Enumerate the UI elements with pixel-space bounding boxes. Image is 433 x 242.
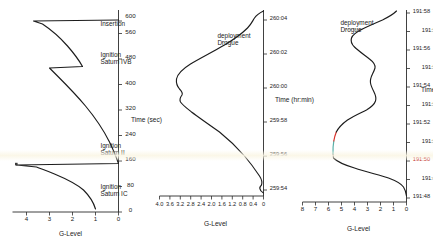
chart-entry-259-svg: 259:54 259:56 259:58 260:00 260:02 260:0… xyxy=(145,0,290,242)
x-tick-label: 259:56 xyxy=(269,151,286,157)
annotation-insertion: Insertion xyxy=(100,20,125,27)
annotation-line: Saturn IVB xyxy=(100,58,131,65)
y-tick-label: 0 xyxy=(261,201,264,207)
y-tick-label: 2.4 xyxy=(197,201,205,207)
y-tick-label: 1.2 xyxy=(228,201,236,207)
x-tick-label: 191:48 xyxy=(412,193,429,199)
y-tick-label: 1 xyxy=(93,215,97,222)
x-axis-tick-labels: 0 80 160 240 320 400 480 560 600 xyxy=(125,12,136,213)
y-tick-label: 8 xyxy=(300,205,304,212)
data-curve-peak-red xyxy=(333,132,336,141)
annotation-drogue-deployment: Drogue deployment xyxy=(217,32,250,47)
x-tick-label: 191:58 xyxy=(412,8,429,14)
y-tick-label: 3 xyxy=(47,215,51,222)
y-axis-ticks xyxy=(159,196,263,200)
x-tick-label: 191:49 xyxy=(421,175,433,181)
y-tick-label: 4.0 xyxy=(155,201,163,207)
annotation-line: Saturn II xyxy=(100,149,124,156)
data-curve-launch xyxy=(16,20,118,209)
x-axis-title: Time (hr:min) xyxy=(421,86,433,94)
annotation-line: Ignition xyxy=(100,142,121,150)
x-tick-label: 259:58 xyxy=(269,117,286,123)
x-tick-label: 191:57 xyxy=(421,27,433,33)
x-tick-label: 240 xyxy=(125,130,136,137)
y-axis-title: G-Level xyxy=(346,225,370,232)
y-tick-label: 0 xyxy=(404,205,408,212)
x-axis-tick-labels: 259:54 259:56 259:58 260:00 260:02 260:0… xyxy=(269,15,286,191)
x-tick-label: 260:02 xyxy=(269,49,286,55)
chart-launch: 0 80 160 240 320 400 480 560 600 Time (s… xyxy=(0,0,145,242)
annotation-line: Ignition xyxy=(100,51,121,59)
y-tick-label: 3 xyxy=(365,205,369,212)
x-tick-label: 560 xyxy=(125,28,136,35)
annotation-saturn-ic: Saturn IC Ignition xyxy=(100,183,127,197)
x-tick-label: 260:00 xyxy=(269,83,286,89)
x-axis-tick-labels: 191:48 191:49 191:50 191:51 191:52 191:5… xyxy=(412,8,433,199)
chart-entry-259-rotated: 259:54 259:56 259:58 260:00 260:02 260:0… xyxy=(145,0,290,242)
y-tick-label: 4 xyxy=(24,215,28,222)
annotation-saturn-ii: Saturn II Ignition xyxy=(100,142,124,156)
y-tick-label: 2.8 xyxy=(186,201,194,207)
x-tick-label: 320 xyxy=(125,104,136,111)
x-tick-label: 259:54 xyxy=(269,185,286,191)
scan-marker xyxy=(15,163,18,166)
y-tick-label: 1 xyxy=(391,205,395,212)
y-tick-label: 0.4 xyxy=(249,201,257,207)
y-tick-label: 2.0 xyxy=(207,201,215,207)
chart-launch-rotated: 0 80 160 240 320 400 480 560 600 Time (s… xyxy=(0,0,145,242)
annotation-line: deployment xyxy=(217,32,250,40)
x-tick-label: 191:56 xyxy=(412,45,429,51)
y-tick-label: 1.6 xyxy=(217,201,225,207)
x-tick-label: 191:52 xyxy=(412,119,429,125)
annotation-line: Insertion xyxy=(100,20,125,27)
chart-entry-191: 191:48 191:49 191:50 191:51 191:52 191:5… xyxy=(288,0,433,242)
y-tick-label: 2 xyxy=(378,205,382,212)
y-axis-tick-labels: 0 0.4 0.8 1.2 1.6 2.0 2.4 2.8 3.2 3.6 4.… xyxy=(155,201,265,207)
x-tick-label: 191:53 xyxy=(421,101,433,107)
chart-launch-svg: 0 80 160 240 320 400 480 560 600 Time (s… xyxy=(0,0,145,242)
chart-entry-191-rotated: 191:48 191:49 191:50 191:51 191:52 191:5… xyxy=(288,0,433,242)
y-tick-label: 3.2 xyxy=(176,201,184,207)
chart-entry-259: 259:54 259:56 259:58 260:00 260:02 260:0… xyxy=(145,0,290,242)
y-tick-label: 4 xyxy=(352,205,356,212)
annotation-line: Drogue xyxy=(217,39,238,47)
y-tick-label: 2 xyxy=(70,215,74,222)
x-tick-label: 160 xyxy=(125,155,136,162)
data-curve-entry-191 xyxy=(333,154,407,196)
y-axis-tick-labels: 0 1 2 3 4 xyxy=(24,215,120,222)
data-curve-peak-teal xyxy=(332,141,333,154)
y-tick-label: 6 xyxy=(326,205,330,212)
y-tick-label: 7 xyxy=(313,205,317,212)
x-tick-label: 191:51 xyxy=(421,138,433,144)
y-tick-label: 5 xyxy=(339,205,343,212)
x-tick-label: 600 xyxy=(125,12,136,19)
x-tick-label: 191:50 xyxy=(412,156,429,162)
x-tick-label: 191:55 xyxy=(421,64,433,70)
y-axis-title: G-Level xyxy=(58,230,82,237)
y-tick-label: 0 xyxy=(116,215,120,222)
chart-entry-191-svg: 191:48 191:49 191:50 191:51 191:52 191:5… xyxy=(288,0,433,242)
y-axis-tick-labels: 0 1 2 3 4 5 6 7 8 xyxy=(300,205,408,212)
annotation-line: deployment xyxy=(340,19,373,27)
annotation-line: Ignition xyxy=(100,183,121,191)
x-tick-label: 80 xyxy=(127,181,134,188)
x-tick-label: 400 xyxy=(125,79,136,86)
y-tick-label: 3.6 xyxy=(165,201,173,207)
figure-page: 0 80 160 240 320 400 480 560 600 Time (s… xyxy=(0,0,433,242)
x-tick-label: 0 xyxy=(128,206,132,213)
x-tick-label: 260:04 xyxy=(269,15,286,21)
annotation-line: Saturn IC xyxy=(100,190,127,197)
y-tick-label: 0.8 xyxy=(238,201,246,207)
y-axis-title: G-Level xyxy=(203,220,227,227)
annotation-line: Drogue xyxy=(340,26,361,34)
